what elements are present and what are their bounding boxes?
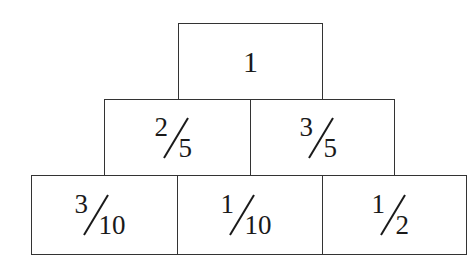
pyramid-cell-fraction: 2 5 [105,100,250,176]
denominator: 5 [179,135,193,162]
fraction: 3 10 [75,189,135,241]
cell-value: 1 [243,47,258,77]
fraction-slash-icon [372,189,418,241]
fraction: 3 5 [300,112,346,164]
pyramid-cell-fraction: 1 2 [322,176,466,254]
fraction: 1 2 [372,189,418,241]
fraction: 2 5 [155,112,201,164]
pyramid-cell-whole: 1 [179,24,322,100]
fraction-slash-icon [300,112,346,164]
fraction: 1 10 [221,189,281,241]
denominator: 2 [396,212,410,239]
denominator: 5 [324,135,338,162]
pyramid-cell-fraction: 3 5 [250,100,394,176]
pyramid-cell-fraction: 1 10 [177,176,323,254]
pyramid-row-bottom: 3 10 1 10 1 2 [31,175,467,255]
pyramid-row-middle: 2 5 3 5 [104,99,395,177]
pyramid-cell-fraction: 3 10 [32,176,177,254]
fraction-slash-icon [155,112,201,164]
denominator: 10 [99,212,126,239]
denominator: 10 [245,212,272,239]
pyramid-row-top: 1 [178,23,323,101]
